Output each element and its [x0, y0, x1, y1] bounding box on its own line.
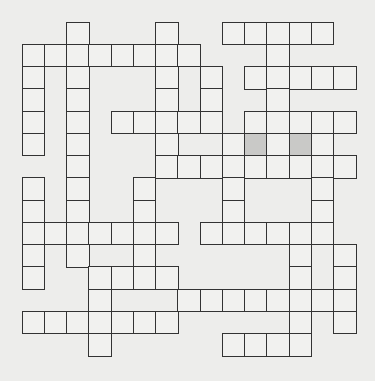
grid-cell[interactable] [66, 88, 90, 112]
grid-cell[interactable] [22, 44, 46, 68]
grid-cell[interactable] [133, 177, 157, 201]
grid-cell[interactable] [66, 311, 90, 335]
grid-cell[interactable] [133, 222, 157, 246]
grid-cell[interactable] [88, 289, 112, 313]
grid-cell[interactable] [244, 66, 268, 90]
grid-cell[interactable] [222, 177, 246, 201]
grid-cell[interactable] [266, 88, 290, 112]
grid-cell[interactable] [266, 111, 290, 135]
grid-cell[interactable] [155, 266, 179, 290]
grid-cell[interactable] [200, 155, 224, 179]
grid-cell[interactable] [111, 222, 135, 246]
grid-cell[interactable] [177, 44, 201, 68]
grid-cell[interactable] [222, 22, 246, 46]
grid-cell[interactable] [333, 289, 357, 313]
grid-cell[interactable] [66, 200, 90, 224]
grid-cell[interactable] [289, 222, 313, 246]
grid-cell[interactable] [22, 111, 46, 135]
grid-cell[interactable] [289, 22, 313, 46]
grid-cell[interactable] [333, 266, 357, 290]
grid-cell[interactable] [88, 44, 112, 68]
grid-cell[interactable] [222, 200, 246, 224]
grid-cell[interactable] [133, 311, 157, 335]
grid-cell[interactable] [155, 22, 179, 46]
grid-cell[interactable] [155, 111, 179, 135]
grid-cell[interactable] [155, 133, 179, 157]
grid-cell[interactable] [133, 44, 157, 68]
grid-cell[interactable] [44, 44, 68, 68]
grid-cell[interactable] [200, 289, 224, 313]
shaded-grid-cell[interactable] [289, 133, 313, 157]
grid-cell[interactable] [66, 66, 90, 90]
grid-cell[interactable] [66, 244, 90, 268]
grid-cell[interactable] [66, 133, 90, 157]
grid-cell[interactable] [133, 244, 157, 268]
grid-cell[interactable] [177, 111, 201, 135]
grid-cell[interactable] [155, 88, 179, 112]
grid-cell[interactable] [22, 133, 46, 157]
grid-cell[interactable] [266, 44, 290, 68]
grid-cell[interactable] [266, 133, 290, 157]
grid-cell[interactable] [111, 266, 135, 290]
grid-cell[interactable] [266, 155, 290, 179]
grid-cell[interactable] [22, 222, 46, 246]
grid-cell[interactable] [289, 311, 313, 335]
grid-cell[interactable] [22, 266, 46, 290]
grid-cell[interactable] [155, 66, 179, 90]
grid-cell[interactable] [133, 200, 157, 224]
grid-cell[interactable] [311, 22, 335, 46]
grid-cell[interactable] [200, 88, 224, 112]
grid-cell[interactable] [66, 44, 90, 68]
grid-cell[interactable] [289, 244, 313, 268]
grid-cell[interactable] [311, 177, 335, 201]
grid-cell[interactable] [88, 266, 112, 290]
grid-cell[interactable] [311, 133, 335, 157]
grid-cell[interactable] [133, 111, 157, 135]
grid-cell[interactable] [88, 333, 112, 357]
grid-cell[interactable] [66, 22, 90, 46]
grid-cell[interactable] [200, 222, 224, 246]
grid-cell[interactable] [222, 222, 246, 246]
grid-cell[interactable] [88, 222, 112, 246]
grid-cell[interactable] [333, 111, 357, 135]
grid-cell[interactable] [244, 333, 268, 357]
grid-cell[interactable] [289, 111, 313, 135]
grid-cell[interactable] [266, 289, 290, 313]
grid-cell[interactable] [22, 244, 46, 268]
grid-cell[interactable] [44, 311, 68, 335]
grid-cell[interactable] [289, 333, 313, 357]
grid-cell[interactable] [177, 289, 201, 313]
grid-cell[interactable] [222, 155, 246, 179]
grid-cell[interactable] [244, 22, 268, 46]
grid-cell[interactable] [222, 333, 246, 357]
grid-cell[interactable] [333, 66, 357, 90]
grid-cell[interactable] [111, 311, 135, 335]
grid-cell[interactable] [22, 311, 46, 335]
grid-cell[interactable] [222, 289, 246, 313]
grid-cell[interactable] [244, 111, 268, 135]
grid-cell[interactable] [200, 66, 224, 90]
grid-cell[interactable] [244, 222, 268, 246]
grid-cell[interactable] [244, 155, 268, 179]
grid-cell[interactable] [333, 244, 357, 268]
grid-cell[interactable] [311, 289, 335, 313]
grid-cell[interactable] [111, 111, 135, 135]
grid-cell[interactable] [66, 155, 90, 179]
grid-cell[interactable] [22, 88, 46, 112]
grid-cell[interactable] [244, 289, 268, 313]
shaded-grid-cell[interactable] [244, 133, 268, 157]
grid-cell[interactable] [155, 222, 179, 246]
grid-cell[interactable] [266, 66, 290, 90]
grid-cell[interactable] [289, 66, 313, 90]
grid-cell[interactable] [311, 155, 335, 179]
grid-cell[interactable] [333, 155, 357, 179]
grid-cell[interactable] [222, 133, 246, 157]
grid-cell[interactable] [133, 266, 157, 290]
grid-cell[interactable] [155, 311, 179, 335]
grid-cell[interactable] [111, 44, 135, 68]
grid-cell[interactable] [266, 22, 290, 46]
grid-cell[interactable] [22, 177, 46, 201]
grid-cell[interactable] [333, 311, 357, 335]
grid-cell[interactable] [66, 111, 90, 135]
grid-cell[interactable] [155, 44, 179, 68]
